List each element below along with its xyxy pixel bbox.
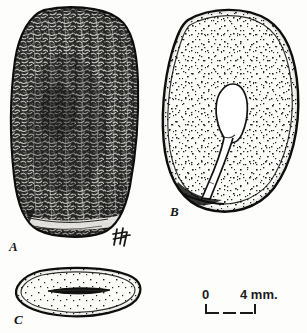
figure-a-body [6, 4, 146, 244]
figure-plate: A B C 0 4 mm. [0, 0, 307, 333]
figure-label-a: A [9, 240, 18, 253]
scale-bar: 0 4 mm. [198, 286, 298, 326]
figure-b-longitudinal-section [158, 6, 306, 226]
scale-bar-start-label: 0 [202, 288, 209, 301]
scale-bar-end-label: 4 mm. [240, 288, 278, 301]
figure-label-c: C [14, 313, 23, 326]
figure-a-external-seed [6, 4, 146, 244]
figure-c-transverse-section [10, 264, 150, 326]
scale-bar-rule [198, 303, 298, 319]
figure-label-b: B [170, 205, 179, 218]
artist-monogram [112, 226, 134, 248]
